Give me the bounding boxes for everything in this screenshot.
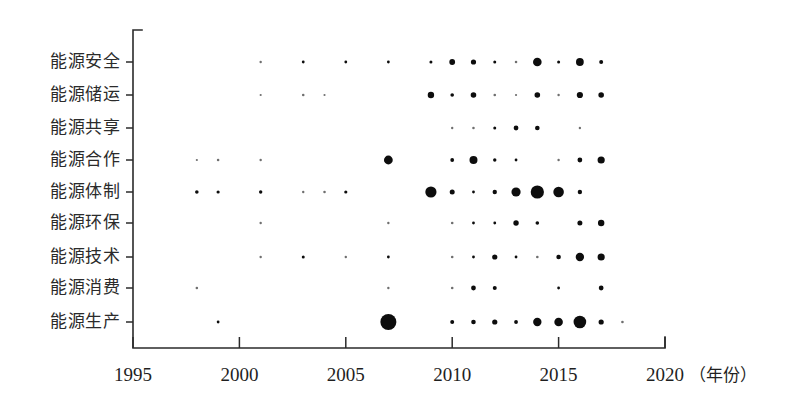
bubble-point	[345, 256, 347, 258]
bubble-point	[259, 190, 262, 193]
bubble-point	[554, 318, 563, 327]
bubble-point	[451, 287, 454, 290]
y-axis-label-7: 能源消费	[50, 278, 120, 297]
y-axis-label-4: 能源体制	[50, 182, 120, 201]
bubble-point	[598, 156, 605, 163]
axes	[133, 30, 665, 348]
x-axis-ticks	[133, 337, 665, 348]
bubble-point	[471, 286, 476, 291]
bubble-point	[472, 191, 475, 194]
bubble-point	[451, 256, 454, 259]
bubble-point	[493, 222, 496, 225]
bubble-point	[449, 59, 455, 65]
bubble-point	[493, 286, 497, 290]
x-axis-tick-label-2020: 2020	[646, 364, 684, 385]
bubble-point	[556, 255, 561, 260]
x-axis-tick-label-1995: 1995	[114, 364, 152, 385]
bubble-point	[380, 314, 396, 330]
y-axis-label-0: 能源安全	[50, 52, 120, 71]
bubble-point	[469, 156, 477, 164]
bubble-point	[450, 158, 454, 162]
bubble-point	[217, 321, 220, 324]
bubble-point	[472, 222, 475, 225]
bubble-point	[577, 221, 582, 226]
bubble-point	[531, 185, 544, 198]
bubble-point	[196, 159, 198, 161]
bubble-point	[259, 256, 261, 258]
bubble-point	[195, 190, 199, 194]
bubble-point	[387, 287, 389, 289]
bubble-point	[535, 92, 541, 98]
bubble-point	[533, 318, 541, 326]
y-axis-label-3: 能源合作	[50, 150, 120, 169]
bubble-point	[492, 254, 497, 259]
bubble-point	[578, 190, 582, 194]
bubble-point	[553, 187, 564, 198]
bubble-chart-figure: 能源安全能源储运能源共享能源合作能源体制能源环保能源技术能源消费能源生产 199…	[0, 0, 796, 414]
bubble-point	[425, 186, 436, 197]
x-axis-tick-label-2000: 2000	[220, 364, 258, 385]
y-axis-label-1: 能源储运	[50, 85, 120, 104]
bubble-point	[493, 190, 497, 194]
x-axis-unit-label: （年份）	[689, 366, 757, 385]
y-axis-label-6: 能源技术	[50, 247, 120, 266]
bubble-point	[535, 126, 540, 131]
bubble-point	[492, 319, 497, 324]
bubble-point	[493, 94, 496, 97]
bubble-point	[493, 127, 496, 130]
bubble-point	[450, 320, 454, 324]
bubble-point	[302, 191, 304, 193]
bubble-point	[577, 158, 582, 163]
bubble-point	[387, 61, 390, 64]
bubble-point	[598, 220, 604, 226]
bubble-point	[515, 94, 517, 96]
y-axis-ticks	[126, 62, 133, 322]
bubble-point	[260, 94, 262, 96]
bubble-point	[515, 256, 518, 259]
bubble-point	[450, 93, 454, 97]
bubble-point	[471, 320, 476, 325]
y-axis-labels: 能源安全能源储运能源共享能源合作能源体制能源环保能源技术能源消费能源生产	[50, 52, 120, 331]
bubble-point	[429, 61, 432, 64]
bubble-point	[259, 222, 261, 224]
bubble-point	[599, 319, 604, 324]
bubble-point	[536, 256, 539, 259]
bubble-point	[599, 286, 604, 291]
data-bubbles	[195, 58, 624, 330]
bubble-point	[514, 320, 518, 324]
bubble-point	[451, 127, 453, 129]
bubble-point	[323, 191, 326, 194]
x-axis-tick-label-2015: 2015	[540, 364, 578, 385]
chart-canvas: 能源安全能源储运能源共享能源合作能源体制能源环保能源技术能源消费能源生产 199…	[0, 0, 796, 414]
bubble-point	[472, 127, 475, 130]
bubble-point	[557, 287, 560, 290]
bubble-point	[387, 256, 390, 259]
bubble-point	[471, 59, 476, 64]
bubble-point	[515, 159, 518, 162]
y-axis-label-5: 能源环保	[50, 213, 120, 232]
bubble-point	[384, 156, 393, 165]
bubble-point	[493, 61, 496, 64]
x-axis-tick-label-2005: 2005	[327, 364, 365, 385]
bubble-point	[323, 94, 325, 96]
bubble-point	[217, 159, 220, 162]
bubble-point	[217, 190, 220, 193]
x-axis-tick-labels: 199520002005201020152020	[114, 364, 684, 385]
x-axis-tick-label-2010: 2010	[433, 364, 471, 385]
bubble-point	[196, 287, 199, 290]
bubble-point	[428, 92, 434, 98]
bubble-point	[471, 92, 477, 98]
bubble-point	[387, 222, 389, 224]
bubble-point	[576, 58, 584, 66]
bubble-point	[514, 126, 519, 131]
bubble-point	[511, 187, 520, 196]
bubble-point	[302, 61, 305, 64]
bubble-point	[451, 222, 454, 225]
bubble-point	[259, 159, 261, 161]
bubble-point	[533, 58, 542, 67]
bubble-point	[557, 94, 559, 96]
bubble-point	[344, 61, 347, 64]
bubble-point	[259, 61, 261, 63]
bubble-point	[557, 61, 560, 64]
bubble-point	[576, 253, 584, 261]
